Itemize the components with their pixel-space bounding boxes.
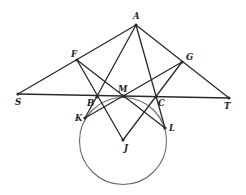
label-g: G [186, 52, 193, 62]
point-b [95, 95, 98, 98]
label-b: B [86, 98, 94, 108]
segment-gk [85, 62, 182, 118]
point-l [163, 126, 166, 129]
point-g [180, 60, 183, 63]
label-k: K [74, 113, 83, 123]
point-m [122, 94, 125, 97]
label-j: J [122, 143, 129, 153]
label-l: L [168, 123, 175, 133]
segment-al [136, 25, 165, 128]
diagram-canvas: AFGSTMBCKLJ [0, 0, 246, 195]
point-j [121, 138, 124, 141]
point-k [83, 116, 86, 119]
label-c: C [158, 98, 165, 108]
label-s: S [15, 97, 21, 107]
line-segments [18, 25, 229, 140]
point-s [16, 92, 19, 95]
label-m: M [117, 84, 128, 94]
point-a [134, 23, 137, 26]
geometry-diagram: AFGSTMBCKLJ [0, 0, 246, 195]
label-f: F [70, 49, 78, 59]
label-a: A [132, 11, 140, 21]
point-t [227, 96, 230, 99]
points [16, 23, 230, 141]
segment-fl [77, 60, 165, 128]
label-t: T [224, 101, 231, 111]
